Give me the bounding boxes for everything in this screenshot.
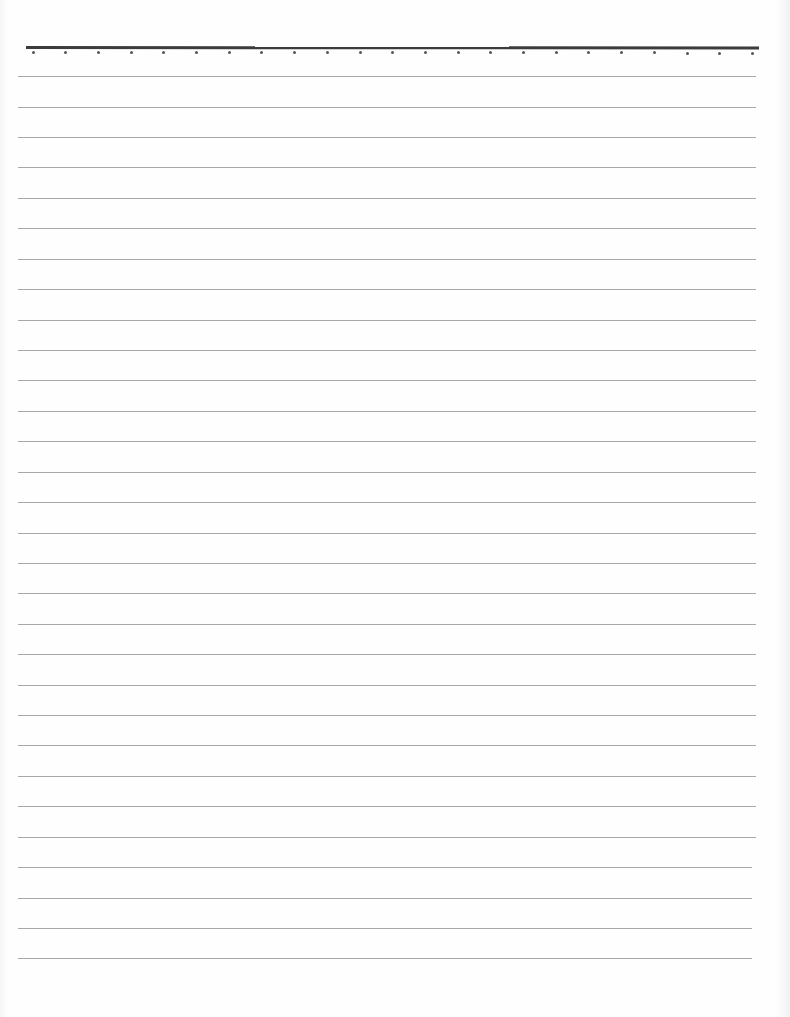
header-dot xyxy=(457,51,460,54)
header-dot xyxy=(97,51,100,54)
header-dot xyxy=(424,51,427,54)
ruled-line xyxy=(18,593,756,594)
header-dot xyxy=(653,51,656,54)
ruled-line xyxy=(18,228,756,229)
header-dot xyxy=(228,51,231,54)
ruled-line xyxy=(18,137,756,138)
header-dot xyxy=(391,51,394,54)
ruled-line xyxy=(18,685,756,686)
ruled-line xyxy=(18,624,756,625)
header-dot xyxy=(522,51,525,54)
header-dot xyxy=(162,51,165,54)
header-dot xyxy=(326,51,329,54)
lined-paper-page xyxy=(0,0,790,1017)
ruled-line xyxy=(18,563,756,564)
header-dot xyxy=(751,52,754,55)
ruled-line xyxy=(18,533,756,534)
ruled-line xyxy=(18,867,752,868)
header-dot xyxy=(195,51,198,54)
ruled-line xyxy=(18,654,756,655)
scan-left-edge-shadow xyxy=(0,0,8,1017)
ruled-line xyxy=(18,320,756,321)
header-dot xyxy=(620,51,623,54)
ruled-line xyxy=(18,350,756,351)
ruled-line xyxy=(18,167,756,168)
ruled-line xyxy=(18,76,756,77)
ruled-line xyxy=(18,198,756,199)
ruled-line xyxy=(18,502,756,503)
header-dot xyxy=(130,51,133,54)
ruled-line xyxy=(18,928,752,929)
ruled-line xyxy=(18,837,756,838)
scan-right-edge-shadow xyxy=(776,0,790,1017)
header-dot xyxy=(489,51,492,54)
header-thick-rule xyxy=(26,46,759,50)
ruled-line xyxy=(18,411,756,412)
header-dot xyxy=(293,51,296,54)
ruled-line xyxy=(18,898,752,899)
header-dot xyxy=(686,52,689,55)
ruled-line xyxy=(18,715,756,716)
ruled-line xyxy=(18,441,756,442)
ruled-line xyxy=(18,776,756,777)
ruled-line xyxy=(18,958,752,959)
ruled-line xyxy=(18,806,756,807)
header-dot xyxy=(260,51,263,54)
header-dot xyxy=(64,51,67,54)
header-dot xyxy=(359,51,362,54)
ruled-line xyxy=(18,107,756,108)
ruled-line xyxy=(18,259,756,260)
header-dot xyxy=(555,51,558,54)
ruled-line xyxy=(18,289,756,290)
header-dot xyxy=(32,51,35,54)
header-dot xyxy=(718,52,721,55)
ruled-line xyxy=(18,745,756,746)
ruled-line xyxy=(18,472,756,473)
ruled-line xyxy=(18,380,756,381)
header-dot xyxy=(587,51,590,54)
